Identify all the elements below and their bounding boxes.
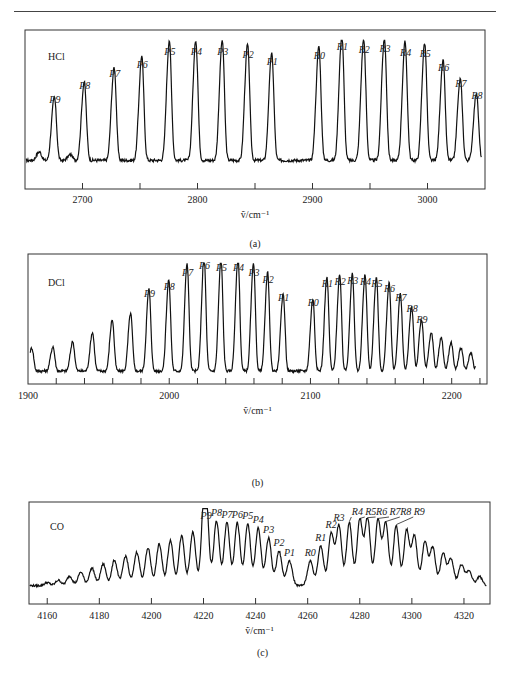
peak-label: P1: [277, 292, 289, 303]
peak-label: P7: [181, 267, 194, 278]
plot-frame: [25, 30, 485, 189]
peak-label: R1: [321, 278, 333, 289]
peak-label: P2: [272, 537, 284, 548]
peak-label: R5: [364, 506, 376, 517]
peak-label: P6: [136, 59, 148, 70]
peak-pointer: [349, 517, 351, 522]
x-tick-label: 2200: [442, 390, 462, 401]
peak-label: P3: [216, 46, 228, 57]
x-tick-label: 2000: [159, 390, 179, 401]
chart-panel-a: 2700280029003000ṽ/cm⁻¹(a)HClP9P8P7P6P5P4…: [25, 30, 485, 250]
peak-label: R9: [415, 314, 427, 325]
peak-label: R1: [336, 41, 348, 52]
peak-label: R7: [454, 78, 467, 89]
peak-label: P5: [163, 46, 175, 57]
peak-label: R7: [394, 292, 407, 303]
peak-label: R8: [470, 90, 482, 101]
peak-label: P9: [48, 94, 60, 105]
panel-caption: (c): [257, 647, 268, 659]
x-tick-label: 4180: [89, 610, 109, 621]
x-tick-label: 2800: [188, 194, 208, 205]
peak-label: P1: [283, 547, 295, 558]
peak-label: P2: [262, 274, 274, 285]
peak-label: P9: [143, 288, 155, 299]
peak-pointer: [360, 517, 365, 518]
peak-label: R5: [419, 48, 431, 59]
peak-label: P4: [190, 46, 202, 57]
x-tick-label: 4300: [402, 610, 422, 621]
species-label: HCl: [48, 51, 65, 62]
x-tick-label: 4240: [246, 610, 266, 621]
spectrum-trace: [30, 263, 475, 372]
peak-label: R3: [378, 43, 390, 54]
x-axis-label: ṽ/cm⁻¹: [243, 405, 271, 416]
peak-pointer: [386, 517, 400, 522]
peak-label: P6: [198, 260, 210, 271]
peak-label: P8: [210, 507, 222, 518]
peak-pointer: [378, 517, 389, 518]
peak-label: R5: [370, 278, 382, 289]
x-tick-label: 4160: [37, 610, 57, 621]
panel-caption: (b): [252, 477, 264, 489]
peak-label: R2: [358, 44, 370, 55]
peak-label: P6: [231, 509, 243, 520]
peak-pointer: [368, 517, 376, 518]
chart-panel-c: 416041804200422042404260428043004320ṽ/cm…: [29, 502, 490, 659]
peak-label: R8: [399, 506, 411, 517]
peak-label: P5: [215, 262, 227, 273]
peak-label: R2: [334, 276, 346, 287]
peak-label: R1: [314, 532, 326, 543]
peak-label: R0: [307, 297, 319, 308]
peak-label: R3: [346, 275, 358, 286]
x-tick-label: 4220: [194, 610, 214, 621]
x-tick-label: 4200: [141, 610, 161, 621]
peak-label: R9: [413, 506, 425, 517]
x-tick-label: 3000: [418, 194, 438, 205]
peak-label: P8: [163, 281, 175, 292]
peak-label: R6: [375, 506, 387, 517]
peak-label: R4: [351, 506, 363, 517]
panel-caption: (a): [249, 238, 260, 250]
peak-label: R6: [383, 283, 395, 294]
x-tick-label: 4260: [298, 610, 318, 621]
peak-label: P4: [252, 514, 264, 525]
x-tick-label: 2100: [300, 390, 320, 401]
x-tick-label: 2900: [303, 194, 323, 205]
peak-label: P1: [266, 56, 278, 67]
peak-label: P3: [262, 524, 274, 535]
peak-label: P5: [241, 510, 253, 521]
peak-label: R8: [406, 303, 418, 314]
peak-label: R0: [304, 547, 316, 558]
chart-panel-b: 1900200021002200ṽ/cm⁻¹(b)DClP9P8P7P6P5P4…: [18, 254, 487, 489]
peak-label: R0: [313, 50, 325, 61]
peak-label: R3: [332, 512, 344, 523]
peak-label: P8: [78, 80, 90, 91]
peak-pointer: [396, 517, 413, 525]
x-tick-label: 1900: [18, 390, 38, 401]
species-label: DCl: [48, 277, 65, 288]
x-axis-label: ṽ/cm⁻¹: [241, 209, 269, 220]
peak-label: P4: [232, 262, 244, 273]
peak-label: R4: [399, 47, 411, 58]
peak-label: P7: [108, 68, 121, 79]
peak-label: R4: [359, 276, 371, 287]
peak-label: P3: [247, 267, 259, 278]
x-axis-label: ṽ/cm⁻¹: [245, 625, 273, 636]
peak-label: P9: [200, 510, 212, 521]
x-tick-label: 2700: [73, 194, 93, 205]
x-tick-label: 4320: [454, 610, 474, 621]
peak-label: R6: [437, 62, 449, 73]
peak-label: P2: [242, 49, 254, 60]
spectra-figure: 2700280029003000ṽ/cm⁻¹(a)HClP9P8P7P6P5P4…: [0, 0, 515, 676]
species-label: CO: [50, 521, 64, 532]
x-tick-label: 4280: [350, 610, 370, 621]
